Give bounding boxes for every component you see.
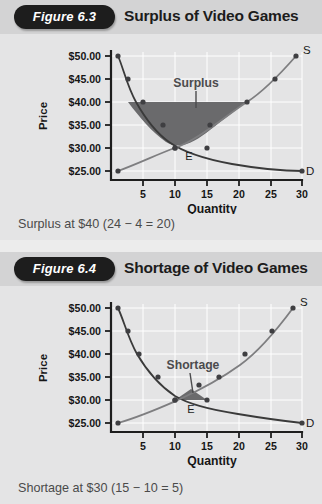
y-tick-label: $40.00: [69, 348, 102, 360]
x-tick-label: 15: [201, 188, 213, 200]
chart-svg-6-4: $50.00 $45.00 $40.00 $35.00 $30.00 $25.0…: [0, 286, 322, 476]
x-tick-label: 15: [201, 440, 213, 452]
y-tick-label: $40.00: [69, 96, 102, 108]
surplus-region-6-3: [128, 102, 247, 145]
figure-panel-6-3: Figure 6.3 Surplus of Video Games: [0, 0, 322, 240]
shortage-annotation-6-4: Shortage: [167, 358, 220, 372]
x-tick-label: 30: [296, 188, 308, 200]
y-tick-label: $25.00: [69, 165, 102, 177]
y-axis-title-6-4: Price: [37, 354, 49, 382]
chart-area-6-3: $50.00 $45.00 $40.00 $35.00 $30.00 $25.0…: [0, 34, 322, 214]
y-tick-label: $30.00: [69, 142, 102, 154]
x-tick-label: 25: [265, 188, 277, 200]
figure-panel-6-4: Figure 6.4 Shortage of Video Games: [0, 252, 322, 504]
supply-curve-label-6-4: S: [300, 296, 308, 308]
x-tick-label: 5: [140, 188, 146, 200]
surplus-annotation-6-3: Surplus: [173, 76, 219, 90]
y-axis-title-6-3: Price: [37, 102, 49, 130]
y-tick-label: $45.00: [69, 325, 102, 337]
x-tick-label: 20: [233, 440, 245, 452]
figure-caption-6-3: Surplus at $40 (24 − 4 = 20): [18, 217, 175, 231]
y-tick-label: $50.00: [69, 50, 102, 62]
y-tick-labels-6-4: $50.00 $45.00 $40.00 $35.00 $30.00 $25.0…: [69, 302, 102, 429]
figure-title-6-3: Surplus of Video Games: [124, 7, 298, 25]
figure-page: Figure 6.3 Surplus of Video Games: [0, 0, 322, 504]
x-tick-labels-6-4: 5 10 15 20 25 30: [140, 440, 308, 452]
demand-curve-label-6-4: D: [306, 417, 314, 429]
y-tick-labels-6-3: $50.00 $45.00 $40.00 $35.00 $30.00 $25.0…: [69, 50, 102, 177]
figure-caption-6-4: Shortage at $30 (15 − 10 = 5): [18, 481, 183, 495]
x-axis-title-6-3: Quantity: [187, 202, 237, 214]
y-tick-label: $30.00: [69, 394, 102, 406]
demand-curve-label-6-3: D: [306, 165, 314, 177]
y-tick-label: $35.00: [69, 119, 102, 131]
figure-badge-6-4: Figure 6.4: [14, 257, 115, 281]
figure-title-6-4: Shortage of Video Games: [124, 259, 308, 277]
x-tick-label: 30: [296, 440, 308, 452]
y-tick-label: $25.00: [69, 417, 102, 429]
figure-badge-6-3: Figure 6.3: [14, 5, 115, 29]
x-tick-label: 10: [169, 188, 181, 200]
chart-area-6-4: $50.00 $45.00 $40.00 $35.00 $30.00 $25.0…: [0, 286, 322, 466]
y-tick-label: $35.00: [69, 371, 102, 383]
x-axis-title-6-4: Quantity: [187, 454, 237, 468]
supply-curve-label-6-3: S: [303, 44, 311, 56]
equilibrium-label-6-4: E: [187, 403, 194, 415]
y-tick-label: $45.00: [69, 73, 102, 85]
y-tick-label: $50.00: [69, 302, 102, 314]
x-tick-label: 5: [140, 440, 146, 452]
x-tick-labels-6-3: 5 10 15 20 25 30: [140, 188, 308, 200]
equilibrium-label-6-3: E: [185, 150, 192, 162]
x-tick-label: 20: [233, 188, 245, 200]
chart-svg-6-3: $50.00 $45.00 $40.00 $35.00 $30.00 $25.0…: [0, 34, 322, 214]
x-tick-label: 25: [265, 440, 277, 452]
x-tick-label: 10: [169, 440, 181, 452]
